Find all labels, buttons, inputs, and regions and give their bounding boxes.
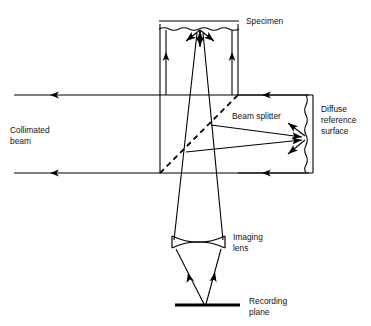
- collimated-beam-label-line2: beam: [10, 136, 31, 146]
- specimen-label: Specimen: [246, 16, 284, 26]
- canvas-background: [0, 0, 371, 326]
- optical-ray-diagram: Specimen Beam splitter Diffuse reference…: [0, 0, 371, 326]
- diffuse-reference-surface-label-line2: reference: [321, 115, 357, 125]
- recording-plane-label-line1: Recording: [249, 296, 288, 306]
- diffuse-reference-surface-label-line1: Diffuse: [321, 104, 347, 114]
- imaging-lens-label-line2: lens: [233, 243, 248, 253]
- diffuse-reference-surface-label-line3: surface: [321, 126, 349, 136]
- collimated-beam-label-line1: Collimated: [10, 125, 50, 135]
- imaging-lens-label-line1: Imaging: [233, 232, 263, 242]
- beam-splitter-label: Beam splitter: [232, 111, 281, 121]
- recording-plane-label-line2: plane: [249, 307, 270, 317]
- diagram-canvas: Specimen Beam splitter Diffuse reference…: [0, 0, 371, 326]
